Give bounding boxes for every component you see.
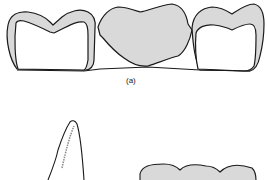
panel-b xyxy=(48,121,256,180)
right-tooth xyxy=(196,24,256,71)
bridge-diagram xyxy=(0,0,267,180)
pontic xyxy=(98,4,192,66)
panel-a-bridge xyxy=(7,4,264,71)
bridge-top-view xyxy=(140,164,256,180)
panel-a-label: (a) xyxy=(126,76,136,85)
